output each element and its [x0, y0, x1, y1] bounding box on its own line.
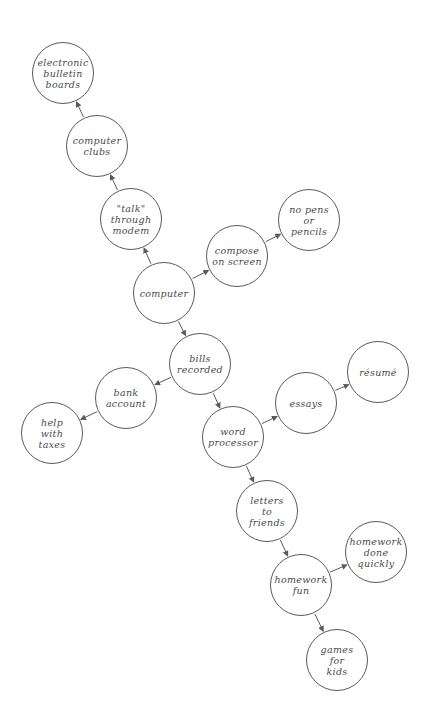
node-help-with-taxes: help with taxes	[21, 402, 83, 464]
node-label: word processor	[208, 426, 258, 448]
node-label: résumé	[359, 367, 397, 378]
node-bills-recorded: bills recorded	[169, 333, 231, 395]
node-word-processor: word processor	[202, 406, 264, 468]
node-label: no pens or pencils	[289, 204, 329, 237]
node-no-pens-or-pencils: no pens or pencils	[278, 189, 340, 251]
concept-map-canvas: electronic bulletin boards computer club…	[0, 0, 432, 727]
node-essays: essays	[275, 372, 337, 434]
node-label: "talk" through modem	[111, 203, 152, 236]
edge-arrow	[213, 393, 220, 408]
edge-arrow	[266, 234, 281, 241]
node-label: computer	[140, 288, 189, 299]
node-label: compose on screen	[212, 245, 262, 267]
edge-arrow	[262, 417, 277, 424]
edge-arrow	[246, 466, 253, 482]
node-electronic-bulletin-boards: electronic bulletin boards	[32, 42, 94, 104]
node-label: electronic bulletin boards	[37, 57, 88, 90]
node-compose-on-screen: compose on screen	[206, 225, 268, 287]
node-computer-clubs: computer clubs	[66, 115, 128, 177]
node-bank-account: bank account	[95, 367, 157, 429]
edge-arrow	[77, 102, 84, 117]
node-label: games for kids	[321, 644, 354, 677]
node-label: essays	[289, 398, 322, 409]
edge-arrow	[155, 377, 171, 384]
node-label: help with taxes	[39, 417, 66, 450]
edge-arrow	[178, 322, 185, 336]
node-letters-to-friends: letters to friends	[236, 480, 298, 542]
edge-arrow	[315, 614, 323, 631]
node-label: homework done quickly	[349, 536, 402, 569]
node-label: homework fun	[274, 574, 327, 596]
node-label: computer clubs	[73, 135, 122, 157]
edge-arrow	[81, 412, 97, 420]
node-talk-through-modem: "talk" through modem	[100, 188, 162, 250]
node-homework-done-quickly: homework done quickly	[345, 521, 407, 583]
node-homework-fun: homework fun	[270, 554, 332, 616]
edge-arrow	[330, 565, 346, 572]
edge-arrow	[144, 248, 151, 264]
node-games-for-kids: games for kids	[306, 629, 368, 691]
edge-arrow	[335, 385, 348, 391]
node-computer: computer	[133, 262, 195, 324]
edge-arrow	[193, 270, 209, 278]
node-resume: résumé	[347, 341, 409, 403]
edge-arrow	[280, 540, 287, 556]
node-label: bank account	[106, 387, 146, 409]
edge-arrow	[111, 175, 118, 190]
node-label: bills recorded	[177, 353, 223, 375]
node-label: letters to friends	[249, 495, 285, 528]
